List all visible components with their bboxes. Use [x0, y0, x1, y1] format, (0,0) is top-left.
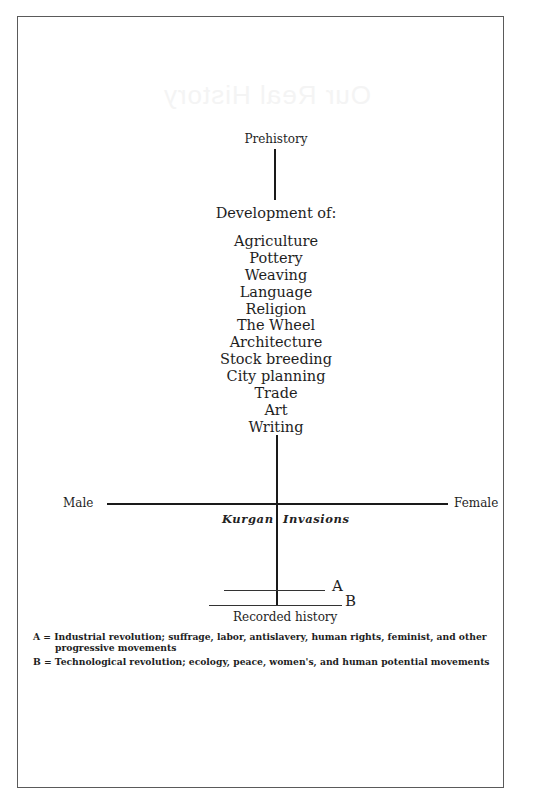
- prehistory-label: Prehistory: [0, 132, 534, 146]
- development-item: Pottery: [0, 250, 534, 267]
- female-label: Female: [454, 496, 498, 510]
- development-item: Stock breeding: [0, 351, 534, 368]
- bleed-through-title: Our Real History: [0, 80, 534, 111]
- marker-a-label: A: [332, 578, 343, 594]
- development-item: Trade: [0, 385, 534, 402]
- invasions-label: Invasions: [283, 512, 350, 526]
- marker-b-line: [209, 605, 342, 606]
- development-item: Architecture: [0, 334, 534, 351]
- development-item: Writing: [0, 419, 534, 436]
- timeline-lower-segment: [276, 435, 278, 606]
- timeline-top-segment: [274, 149, 276, 200]
- legend-a-line1: A = Industrial revolution; suffrage, lab…: [33, 631, 503, 642]
- development-item: City planning: [0, 368, 534, 385]
- development-item: Weaving: [0, 267, 534, 284]
- kurgan-label: Kurgan: [222, 512, 274, 526]
- development-item: Language: [0, 284, 534, 301]
- legend-b-line1: B = Technological revolution; ecology, p…: [33, 656, 503, 667]
- legend-a: A = Industrial revolution; suffrage, lab…: [33, 631, 503, 653]
- legend-b: B = Technological revolution; ecology, p…: [33, 656, 503, 667]
- gender-axis-line: [107, 503, 448, 505]
- development-list: Agriculture Pottery Weaving Language Rel…: [0, 233, 534, 436]
- legend-a-line2: progressive movements: [33, 642, 503, 653]
- development-item: Art: [0, 402, 534, 419]
- marker-a-line: [224, 590, 325, 591]
- recorded-history-label: Recorded history: [233, 610, 337, 624]
- development-item: Religion: [0, 301, 534, 318]
- marker-b-label: B: [345, 593, 356, 609]
- development-heading: Development of:: [0, 205, 534, 222]
- male-label: Male: [63, 496, 93, 510]
- development-item: Agriculture: [0, 233, 534, 250]
- development-item: The Wheel: [0, 317, 534, 334]
